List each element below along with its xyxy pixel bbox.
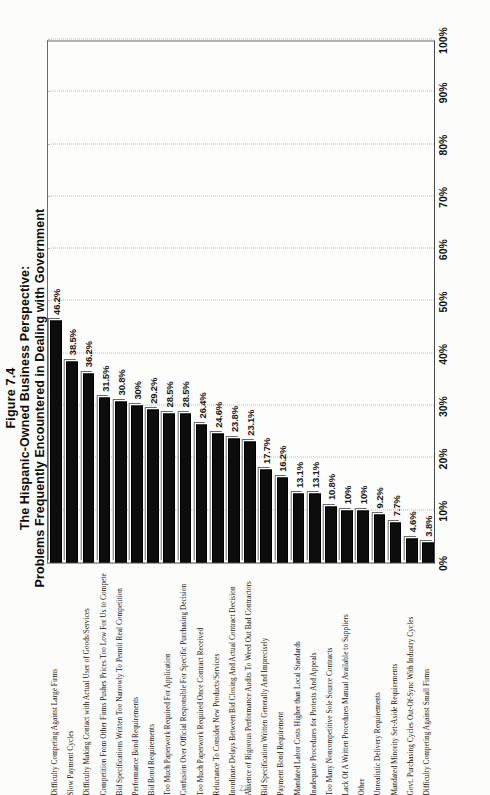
value-axis-tick-labels: 0%10%20%30%40%50%60%70%80%90%100%: [437, 40, 463, 563]
bar: 29.2%: [147, 409, 159, 562]
bar-value-label: 30%: [131, 381, 142, 399]
bar: 24.6%: [212, 433, 224, 562]
x-tick-label: 100%: [437, 27, 449, 54]
category-label: Competition From Other Firms Pushes Pric…: [100, 572, 108, 795]
category-label: Mandated Labor Costs Higher than Local S…: [294, 572, 302, 795]
bar-value-label: 16.2%: [277, 445, 288, 471]
page-folio: 223: [0, 784, 490, 793]
bar: 38.5%: [66, 361, 78, 562]
bar-row: 9.2%: [374, 39, 386, 562]
category-label: Confusion Over Official Responsible For …: [180, 572, 188, 795]
category-label: Bid Specifications Written Too Narrowly …: [116, 572, 124, 795]
bar-row: 38.5%: [66, 39, 78, 562]
x-tick-label: 80%: [437, 134, 449, 155]
bar-row: 28.5%: [163, 39, 175, 562]
bar-row: 46.2%: [50, 39, 62, 562]
bar: 46.2%: [50, 320, 62, 562]
bar-value-label: 38.5%: [67, 329, 78, 355]
bar-value-label: 17.7%: [261, 438, 272, 464]
bar: 9.2%: [374, 514, 386, 562]
rotated-figure-canvas: Figure 7.4 The Hispanic-Owned Business P…: [0, 0, 490, 795]
bar-value-label: 29.2%: [148, 377, 159, 403]
category-label: Too Many Noncompetitive Sole Source Cont…: [326, 572, 334, 795]
chart-plot-area: 46.2%38.5%36.2%31.5%30.8%30%29.2%28.5%28…: [47, 40, 435, 563]
bar-value-label: 23.1%: [245, 409, 256, 435]
bar-row: 30%: [131, 39, 143, 562]
bar: 7.7%: [390, 522, 402, 562]
figure-page: Figure 7.4 The Hispanic-Owned Business P…: [0, 0, 490, 795]
category-label: Inordinate Delays Between Bid Closing An…: [229, 572, 237, 795]
bar: 23.1%: [244, 441, 256, 562]
bar: 3.8%: [422, 542, 434, 562]
category-label: Unrealistic Delivery Requirements: [374, 572, 382, 795]
bar-value-label: 9.2%: [374, 487, 385, 508]
bar-row: 31.5%: [99, 39, 111, 562]
bar-value-label: 13.1%: [293, 462, 304, 488]
category-label: Govt. Purchasing Cycles Out-Of-Sync With…: [407, 572, 415, 795]
category-label: Too Much Paperwork Required For Applicat…: [164, 572, 172, 795]
bar-row: 13.1%: [293, 39, 305, 562]
bar-value-label: 31.5%: [99, 365, 110, 391]
bar-value-label: 24.6%: [212, 401, 223, 427]
bar: 28.5%: [163, 413, 175, 562]
bar-value-label: 28.5%: [180, 381, 191, 407]
category-label: Bid Bond Requirements: [148, 572, 156, 795]
bar-row: 30.8%: [115, 39, 127, 562]
category-label: Performance Bond Requirements: [132, 572, 140, 795]
x-tick-label: 30%: [437, 396, 449, 417]
bar-value-label: 7.7%: [390, 495, 401, 516]
category-label: Mandated Minority Set-Aside Requirements: [391, 572, 399, 795]
x-tick-label: 70%: [437, 186, 449, 207]
bar-value-label: 10.8%: [325, 474, 336, 500]
x-tick-label: 40%: [437, 343, 449, 364]
x-tick-label: 10%: [437, 500, 449, 521]
bar: 13.1%: [309, 494, 321, 563]
bar-row: 13.1%: [309, 39, 321, 562]
category-label: Difficulty Competing Against Large Firms: [51, 572, 59, 795]
bar-row: 28.5%: [180, 39, 192, 562]
category-label: Bid Specification Written Generally And …: [261, 572, 269, 795]
bar-value-label: 10%: [358, 485, 369, 503]
bar-row: 36.2%: [83, 39, 95, 562]
x-tick-label: 90%: [437, 82, 449, 103]
bar-value-label: 4.6%: [406, 511, 417, 532]
figure-title-line-2: Problems Frequently Encountered in Deali…: [33, 0, 48, 795]
bar: 26.4%: [196, 424, 208, 562]
bar: 30.8%: [115, 401, 127, 562]
bar: 23.8%: [228, 438, 240, 562]
bar-row: 4.6%: [406, 39, 418, 562]
figure-number: Figure 7.4: [4, 0, 18, 795]
bar-row: 10%: [341, 39, 353, 562]
bar: 30%: [131, 405, 143, 562]
bar-row: 24.6%: [212, 39, 224, 562]
bar: 28.5%: [180, 413, 192, 562]
category-label: Difficulty Making Contact with Actual Us…: [83, 572, 91, 795]
category-label: Slow Payment Cycles: [67, 572, 75, 795]
bar: 17.7%: [260, 469, 272, 562]
bar-value-label: 30.8%: [115, 369, 126, 395]
bar-row: 17.7%: [260, 39, 272, 562]
x-tick-label: 60%: [437, 239, 449, 260]
category-label: Payment Bond Requirement: [277, 572, 285, 795]
figure-title-line-1: The Hispanic-Owned Business Perspective:: [18, 0, 33, 795]
category-label: Absence of Rigorous Performance Audits T…: [245, 572, 253, 795]
x-tick-label: 0%: [437, 555, 449, 570]
bar-row: 23.1%: [244, 39, 256, 562]
bar: 10.8%: [325, 506, 337, 562]
category-label: Other: [358, 572, 366, 795]
bar-row: 16.2%: [277, 39, 289, 562]
x-tick-label: 50%: [437, 291, 449, 312]
category-label: Inadequate Procedures for Protests And A…: [310, 572, 318, 795]
bar-row: 3.8%: [422, 39, 434, 562]
bar: 10%: [341, 510, 353, 562]
bar-row: 29.2%: [147, 39, 159, 562]
bar-value-label: 3.8%: [422, 515, 433, 536]
bar: 13.1%: [293, 494, 305, 563]
bar-row: 26.4%: [196, 39, 208, 562]
bar-row: 23.8%: [228, 39, 240, 562]
bar-value-label: 10%: [342, 485, 353, 503]
category-label: Too Much Paperwork Required Once Contrac…: [197, 572, 205, 795]
bar: 4.6%: [406, 538, 418, 562]
bar-value-label: 26.4%: [196, 392, 207, 418]
bar-value-label: 36.2%: [83, 341, 94, 367]
